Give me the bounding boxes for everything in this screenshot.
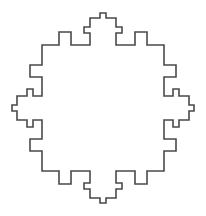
fractal-outline-svg <box>0 0 206 216</box>
fractal-diagram <box>0 0 206 216</box>
fractal-outline <box>12 13 194 203</box>
